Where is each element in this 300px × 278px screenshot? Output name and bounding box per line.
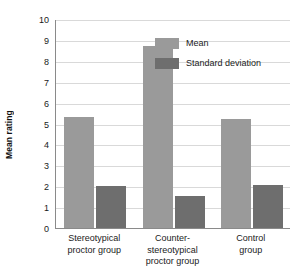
x-axis-label: Controlgroup (212, 233, 290, 256)
bar-sd (175, 196, 205, 228)
x-axis-label-line: stereotypical (133, 245, 211, 257)
chart-legend: MeanStandard deviation (155, 38, 290, 78)
y-axis-tick-label: 1 (33, 203, 49, 213)
legend-item: Standard deviation (155, 58, 290, 69)
legend-swatch-icon (155, 58, 179, 69)
y-axis-tick-label: 9 (33, 36, 49, 46)
y-axis-tick-label: 3 (33, 161, 49, 171)
gridline (56, 104, 290, 105)
legend-swatch-icon (155, 38, 179, 49)
bar-chart-figure: Mean rating 109876543210 MeanStandard de… (0, 0, 300, 278)
legend-item: Mean (155, 38, 290, 49)
legend-label: Mean (186, 38, 209, 49)
x-axis-label-line: Stereotypical (55, 233, 133, 245)
y-axis-tick-label: 10 (33, 15, 49, 25)
x-axis-label-line: Control (212, 233, 290, 245)
gridline (56, 20, 290, 21)
gridline (56, 83, 290, 84)
bar-mean (64, 117, 94, 228)
y-axis-tick-label: 8 (33, 57, 49, 67)
y-axis-tick-label: 7 (33, 78, 49, 88)
x-axis-label-line: group (212, 245, 290, 257)
x-axis-label-line: proctor group (55, 245, 133, 257)
x-axis-category-labels: Stereotypicalproctor groupCounter-stereo… (55, 233, 290, 278)
y-axis-title: Mean rating (0, 90, 18, 180)
legend-label: Standard deviation (186, 58, 261, 69)
x-axis-label: Counter-stereotypicalproctor group (133, 233, 211, 268)
bar-sd (253, 185, 283, 228)
y-axis-tick-label: 6 (33, 99, 49, 109)
x-axis-label-line: Counter- (133, 233, 211, 245)
x-axis-label-line: proctor group (133, 256, 211, 268)
y-axis-tick-label: 4 (33, 140, 49, 150)
y-axis-tick-label: 2 (33, 182, 49, 192)
y-axis-tick-label: 5 (33, 120, 49, 130)
x-axis-label: Stereotypicalproctor group (55, 233, 133, 256)
bar-mean (221, 119, 251, 228)
bar-sd (96, 186, 126, 228)
y-axis-tick-label: 0 (33, 224, 49, 234)
